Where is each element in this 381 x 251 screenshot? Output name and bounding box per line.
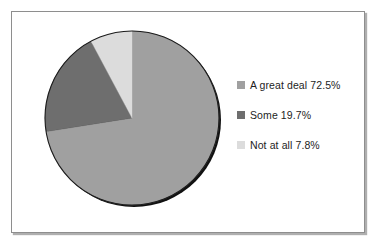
chart-frame: A great deal 72.5% Some 19.7% Not at all… — [11, 11, 365, 233]
chart-screenshot: A great deal 72.5% Some 19.7% Not at all… — [0, 0, 381, 251]
legend-swatch-a-great-deal — [237, 81, 245, 89]
pie-svg — [35, 19, 215, 217]
legend-item-some[interactable]: Some 19.7% — [237, 108, 362, 121]
legend-label-not-at-all: Not at all 7.8% — [250, 139, 320, 151]
pie-slices-group — [45, 31, 219, 205]
legend-item-not-at-all[interactable]: Not at all 7.8% — [237, 138, 362, 151]
legend-swatch-not-at-all — [237, 141, 245, 149]
legend-label-some: Some 19.7% — [250, 109, 311, 121]
chart-legend: A great deal 72.5% Some 19.7% Not at all… — [237, 78, 362, 168]
legend-swatch-some — [237, 111, 245, 119]
legend-item-a-great-deal[interactable]: A great deal 72.5% — [237, 78, 362, 91]
pie-chart — [35, 19, 215, 217]
legend-label-a-great-deal: A great deal 72.5% — [250, 79, 341, 91]
